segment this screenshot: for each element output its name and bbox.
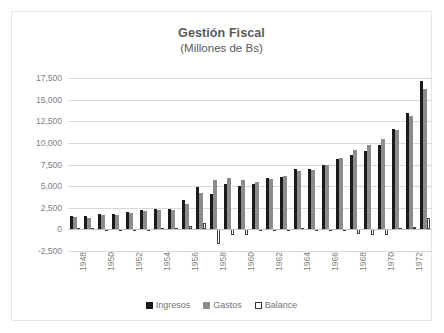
bar-gastos[interactable] <box>339 158 342 230</box>
bar-gastos[interactable] <box>157 210 160 229</box>
bar-gastos[interactable] <box>171 210 174 229</box>
bar-ingresos[interactable] <box>364 151 367 229</box>
bar-group[interactable] <box>404 78 418 251</box>
bar-gastos[interactable] <box>297 171 300 229</box>
bar-group[interactable] <box>208 78 222 251</box>
bar-gastos[interactable] <box>87 218 90 230</box>
bar-gastos[interactable] <box>143 211 146 229</box>
bar-gastos[interactable] <box>213 180 216 230</box>
chart-subtitle: (Millones de Bs) <box>12 41 431 56</box>
bar-ingresos[interactable] <box>392 129 395 230</box>
legend-item-ingresos[interactable]: Ingresos <box>146 300 191 310</box>
chart-title-block: Gestión Fiscal (Millones de Bs) <box>12 26 431 56</box>
bar-ingresos[interactable] <box>224 184 227 229</box>
x-axis-tick-label: 1952 <box>135 252 144 271</box>
y-axis-tick-label: -2,500 <box>38 247 62 256</box>
bar-ingresos[interactable] <box>210 194 213 229</box>
bar-group[interactable] <box>180 78 194 251</box>
bar-group[interactable] <box>138 78 152 251</box>
bar-group[interactable] <box>96 78 110 251</box>
bar-ingresos[interactable] <box>98 214 101 229</box>
bar-gastos[interactable] <box>325 165 328 229</box>
bar-ingresos[interactable] <box>350 155 353 230</box>
bar-ingresos[interactable] <box>406 113 409 229</box>
bar-gastos[interactable] <box>255 182 258 229</box>
bar-group[interactable] <box>250 78 264 251</box>
bar-ingresos[interactable] <box>322 165 325 230</box>
legend-swatch-icon <box>203 302 210 309</box>
bar-group[interactable] <box>82 78 96 251</box>
bar-gastos[interactable] <box>423 89 426 229</box>
bar-gastos[interactable] <box>101 215 104 229</box>
bar-group[interactable] <box>348 78 362 251</box>
x-axis-tick-label: 1968 <box>359 252 368 271</box>
x-axis-tick-label: 1962 <box>275 252 284 271</box>
bar-balance[interactable] <box>217 229 220 244</box>
legend-swatch-icon <box>146 302 153 309</box>
bar-group[interactable] <box>292 78 306 251</box>
bar-gastos[interactable] <box>311 170 314 230</box>
bar-gastos[interactable] <box>395 130 398 229</box>
bar-balance[interactable] <box>427 218 430 229</box>
bar-group[interactable] <box>194 78 208 251</box>
bar-group[interactable] <box>110 78 124 251</box>
bar-ingresos[interactable] <box>266 178 269 229</box>
plot-area <box>68 78 432 251</box>
bar-ingresos[interactable] <box>378 145 381 230</box>
bar-ingresos[interactable] <box>308 169 311 229</box>
legend-swatch-icon <box>255 302 262 309</box>
bar-gastos[interactable] <box>241 180 244 229</box>
bar-ingresos[interactable] <box>252 184 255 230</box>
bar-group[interactable] <box>236 78 250 251</box>
bar-group[interactable] <box>152 78 166 251</box>
bar-gastos[interactable] <box>409 116 412 230</box>
legend-item-gastos[interactable]: Gastos <box>203 300 242 310</box>
bar-group[interactable] <box>362 78 376 251</box>
bar-gastos[interactable] <box>269 179 272 229</box>
bar-group[interactable] <box>376 78 390 251</box>
bar-gastos[interactable] <box>73 217 76 229</box>
bar-group[interactable] <box>320 78 334 251</box>
legend-item-balance[interactable]: Balance <box>255 300 298 310</box>
bar-gastos[interactable] <box>283 176 286 229</box>
bar-ingresos[interactable] <box>182 200 185 229</box>
bar-group[interactable] <box>334 78 348 251</box>
bar-gastos[interactable] <box>227 178 230 229</box>
y-axis-tick-label: 15,000 <box>36 96 62 105</box>
page-title: Gestión Fiscal <box>12 26 431 41</box>
bar-ingresos[interactable] <box>336 159 339 229</box>
bars-layer <box>68 78 432 251</box>
bar-gastos[interactable] <box>129 213 132 230</box>
y-axis-tick-label: 10,000 <box>36 139 62 148</box>
bar-ingresos[interactable] <box>280 177 283 229</box>
bar-gastos[interactable] <box>115 215 118 230</box>
bar-ingresos[interactable] <box>420 81 423 230</box>
bar-group[interactable] <box>418 78 432 251</box>
bar-gastos[interactable] <box>199 193 202 229</box>
bar-group[interactable] <box>264 78 278 251</box>
bar-ingresos[interactable] <box>238 186 241 230</box>
bar-group[interactable] <box>390 78 404 251</box>
bar-group[interactable] <box>278 78 292 251</box>
bar-ingresos[interactable] <box>126 212 129 230</box>
bar-gastos[interactable] <box>367 145 370 229</box>
x-axis-tick-label: 1972 <box>415 252 424 271</box>
bar-group[interactable] <box>222 78 236 251</box>
bar-ingresos[interactable] <box>294 169 297 229</box>
bar-group[interactable] <box>68 78 82 251</box>
bar-gastos[interactable] <box>353 150 356 229</box>
bar-group[interactable] <box>306 78 320 251</box>
bar-gastos[interactable] <box>381 139 384 230</box>
zero-axis-line <box>68 229 432 230</box>
bar-gastos[interactable] <box>185 204 188 230</box>
bar-group[interactable] <box>124 78 138 251</box>
bar-ingresos[interactable] <box>70 216 73 229</box>
bar-ingresos[interactable] <box>168 209 171 230</box>
bar-ingresos[interactable] <box>112 214 115 230</box>
bar-ingresos[interactable] <box>140 210 143 229</box>
bar-ingresos[interactable] <box>154 209 157 229</box>
bar-ingresos[interactable] <box>84 216 87 229</box>
bar-ingresos[interactable] <box>196 187 199 229</box>
bar-group[interactable] <box>166 78 180 251</box>
x-axis-tick-label: 1956 <box>191 252 200 271</box>
